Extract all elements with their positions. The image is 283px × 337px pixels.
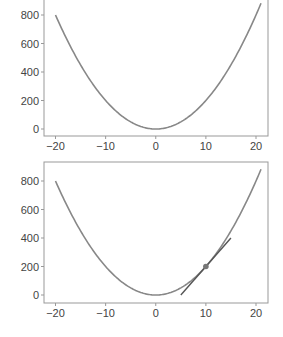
tangent-point [203, 264, 209, 270]
x-tick-label: 20 [250, 307, 262, 319]
y-tick-label: 600 [21, 204, 39, 216]
parabola-curve [56, 3, 262, 129]
x-tick-label: 10 [200, 140, 212, 152]
x-tick-label: 10 [200, 307, 212, 319]
subplot-2: −20−10010200200400600800 [21, 162, 268, 319]
axes-frame [44, 162, 268, 303]
parabola-curve [56, 169, 262, 295]
x-tick-label: −10 [96, 307, 115, 319]
y-tick-label: 600 [21, 38, 39, 50]
x-tick-label: 0 [153, 307, 159, 319]
x-tick-label: −20 [46, 307, 65, 319]
y-tick-label: 200 [21, 95, 39, 107]
y-tick-label: 0 [33, 123, 39, 135]
y-tick-label: 400 [21, 232, 39, 244]
y-tick-label: 200 [21, 261, 39, 273]
x-tick-label: 20 [250, 140, 262, 152]
y-tick-label: 800 [21, 175, 39, 187]
x-tick-label: −20 [46, 140, 65, 152]
y-tick-label: 800 [21, 9, 39, 21]
y-tick-label: 400 [21, 66, 39, 78]
x-tick-label: −10 [96, 140, 115, 152]
chart-figure: −20−10010200200400600800−20−100102002004… [0, 0, 283, 337]
subplot-1: −20−10010200200400600800 [21, 0, 268, 152]
y-tick-label: 0 [33, 289, 39, 301]
axes-frame [44, 0, 268, 136]
x-tick-label: 0 [153, 140, 159, 152]
